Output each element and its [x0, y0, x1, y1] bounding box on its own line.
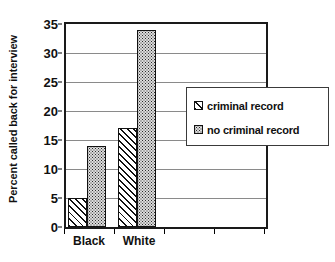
y-axis-tick-label: 10 — [44, 162, 58, 177]
legend-item-label: criminal record — [207, 100, 283, 112]
x-axis-tick-labels: BlackWhite — [64, 234, 268, 254]
y-axis-title-text: Percent called back for interview — [7, 35, 19, 203]
y-axis-tick-label: 25 — [44, 75, 58, 90]
y-axis-tick-label: 5 — [51, 191, 58, 206]
y-axis-title: Percent called back for interview — [0, 0, 26, 238]
y-axis-tick-mark — [58, 53, 62, 54]
y-axis-tick-label: 30 — [44, 46, 58, 61]
y-axis-tick-labels: 35302520151050 — [26, 14, 62, 230]
y-axis-tick-mark — [58, 169, 62, 170]
bar — [68, 198, 87, 227]
y-axis-tick-label: 0 — [51, 220, 58, 235]
legend-item-label: no criminal record — [207, 124, 299, 136]
x-axis-tick-label: White — [123, 234, 156, 248]
y-axis-tick-mark — [58, 24, 62, 25]
bar — [137, 30, 156, 227]
y-axis-tick-mark — [58, 227, 62, 228]
legend-swatch-dots-icon — [194, 125, 203, 134]
bar-chart: Percent called back for interview 353025… — [0, 0, 335, 262]
chart-legend: criminal record no criminal record — [186, 87, 329, 146]
y-axis-tick-mark — [58, 111, 62, 112]
y-axis-tick-label: 20 — [44, 104, 58, 119]
legend-item: no criminal record — [194, 119, 328, 140]
x-axis-tick-label: Black — [73, 234, 105, 248]
y-axis-tick-label: 15 — [44, 133, 58, 148]
y-axis-tick-label: 35 — [44, 17, 58, 32]
bar — [87, 146, 106, 227]
y-axis-tick-mark — [58, 82, 62, 83]
bar — [118, 128, 137, 227]
legend-item: criminal record — [194, 95, 328, 116]
y-axis-tick-mark — [58, 140, 62, 141]
y-axis-tick-mark — [58, 198, 62, 199]
legend-swatch-hatch-icon — [194, 101, 203, 110]
